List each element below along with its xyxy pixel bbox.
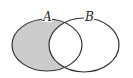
set-b-label: B [84,10,94,24]
set-b-circle [49,18,119,72]
set-a-label: A [42,10,52,24]
venn-diagram: A B [0,0,133,78]
